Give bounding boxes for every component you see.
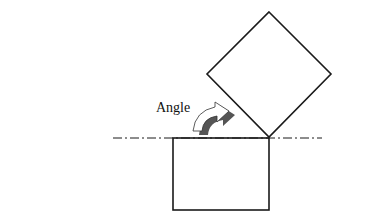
base-square bbox=[173, 138, 269, 210]
rotation-diagram bbox=[0, 0, 382, 221]
angle-label: Angle bbox=[156, 100, 190, 116]
rotation-arrow-icon bbox=[193, 102, 235, 135]
